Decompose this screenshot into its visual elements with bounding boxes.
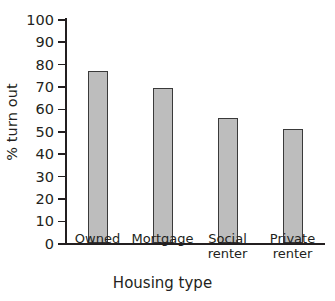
x-tick-label: Owned xyxy=(65,231,130,246)
bar xyxy=(283,129,303,243)
y-tick-label: 50 xyxy=(36,125,54,140)
y-tick-label: 60 xyxy=(36,102,54,117)
y-tick-30: 30 xyxy=(58,176,65,178)
y-tick-90: 90 xyxy=(58,41,65,43)
y-tick-50: 50 xyxy=(58,131,65,133)
x-axis-title: Housing type xyxy=(55,274,270,292)
bar-chart-figure: % turn out 1009080706050403020100 OwnedM… xyxy=(0,0,335,301)
y-axis-title-text: % turn out xyxy=(4,83,20,161)
x-tick-label: Social renter xyxy=(195,231,260,261)
y-axis-line xyxy=(65,18,67,244)
y-tick-label: 80 xyxy=(36,57,54,72)
y-tick-80: 80 xyxy=(58,64,65,66)
y-axis-title: % turn out xyxy=(0,0,24,243)
y-tick-10: 10 xyxy=(58,221,65,223)
y-tick-100: 100 xyxy=(58,19,65,21)
y-tick-40: 40 xyxy=(58,153,65,155)
y-tick-label: 10 xyxy=(36,214,54,229)
y-tick-label: 100 xyxy=(26,13,54,28)
bar xyxy=(153,88,173,243)
y-tick-70: 70 xyxy=(58,86,65,88)
y-tick-60: 60 xyxy=(58,109,65,111)
bar xyxy=(88,71,108,243)
y-tick-label: 70 xyxy=(36,80,54,95)
plot-area: 1009080706050403020100 xyxy=(65,19,325,243)
y-tick-label: 0 xyxy=(45,237,54,252)
bar xyxy=(218,118,238,243)
x-tick-label: Mortgage xyxy=(130,231,195,246)
y-tick-label: 20 xyxy=(36,192,54,207)
y-tick-label: 90 xyxy=(36,35,54,50)
x-tick-label: Private renter xyxy=(260,231,325,261)
y-tick-20: 20 xyxy=(58,198,65,200)
y-tick-label: 40 xyxy=(36,147,54,162)
y-tick-label: 30 xyxy=(36,169,54,184)
